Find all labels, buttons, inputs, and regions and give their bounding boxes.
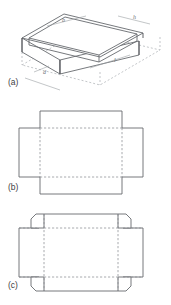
dimension-label-h: h — [133, 14, 136, 20]
dimension-label-b: b — [62, 17, 65, 23]
corner-tab-top-right — [118, 214, 131, 228]
panel-b-plain-net: (b) — [8, 111, 143, 194]
box-construction-figure: b h l d (a) (b) — [0, 0, 171, 305]
figure-container: b h l d (a) (b) — [0, 0, 171, 305]
panel-c-tabbed-net: (c) — [8, 214, 143, 291]
corner-tab-top-left — [31, 214, 44, 228]
dimension-label-d: d — [43, 69, 47, 75]
panel-label-b: (b) — [8, 182, 19, 192]
corner-tab-bottom-right — [118, 277, 131, 291]
panel-label-c: (c) — [8, 280, 18, 290]
panel-a-isometric-tray: b h l d (a) — [8, 14, 160, 90]
panel-label-a: (a) — [8, 77, 19, 87]
corner-tab-bottom-left — [31, 277, 44, 291]
net-b-outline — [19, 111, 143, 194]
